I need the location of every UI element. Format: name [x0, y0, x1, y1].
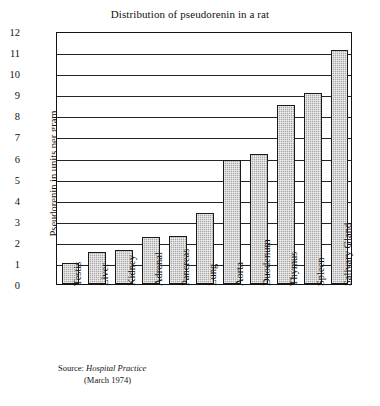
x-tick-label: Thymus [289, 252, 300, 286]
y-tick-label: 3 [0, 218, 20, 229]
y-tick-label: 2 [0, 239, 20, 250]
x-tick-label: Testis [73, 262, 84, 286]
source-label: Source: [58, 363, 84, 373]
y-tick-label: 9 [0, 91, 20, 102]
x-tick-label: Duodenum [262, 239, 273, 286]
source-line-primary: Source: Hospital Practice [58, 362, 298, 374]
x-tick-label: Aorta [235, 262, 246, 286]
x-tick-label: Liver [100, 263, 111, 286]
x-tick-label: Spleen [316, 257, 327, 286]
source-date: (March 1974) [58, 374, 298, 386]
x-tick-label: Adrenal [154, 252, 165, 286]
y-tick-label: 1 [0, 260, 20, 271]
bar-series [57, 33, 351, 284]
x-tick-label: Lung [208, 264, 219, 286]
y-tick-label: 0 [0, 281, 20, 292]
source-note: Source: Hospital Practice (March 1974) [58, 362, 298, 387]
source-publication: Hospital Practice [86, 363, 146, 373]
y-tick-label: 4 [0, 196, 20, 207]
bar [304, 93, 322, 284]
plot-area: 0123456789101112 [56, 32, 352, 285]
y-tick-label: 12 [0, 28, 20, 39]
chart-title: Distribution of pseudorenin in a rat [0, 8, 380, 20]
y-tick-label: 5 [0, 175, 20, 186]
y-tick-label: 8 [0, 112, 20, 123]
y-tick-label: 7 [0, 133, 20, 144]
x-tick-label: Salivary Gland [343, 223, 354, 286]
x-tick-label: Kidney [127, 255, 138, 286]
y-tick-label: 6 [0, 154, 20, 165]
chart-figure: Distribution of pseudorenin in a rat Pse… [0, 0, 380, 406]
y-tick-label: 11 [0, 49, 20, 60]
y-tick-label: 10 [0, 70, 20, 81]
x-tick-label: Pancreas [181, 249, 192, 286]
